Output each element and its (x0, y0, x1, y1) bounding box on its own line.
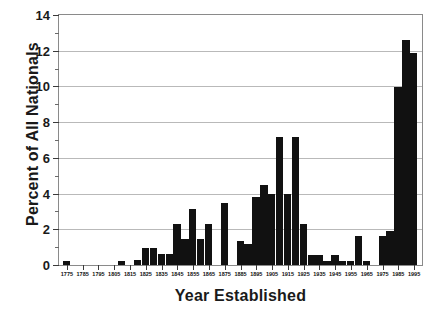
bar (158, 254, 165, 265)
x-tick (241, 265, 242, 270)
x-tick-label: 1935 (313, 271, 325, 277)
x-tick (383, 265, 384, 270)
bar (276, 137, 283, 265)
x-tick (288, 265, 289, 270)
x-tick (114, 265, 115, 270)
bar (150, 248, 157, 265)
x-tick-label: 1975 (376, 271, 388, 277)
x-tick (83, 265, 84, 270)
y-tick-minor (55, 176, 59, 177)
bar (402, 40, 409, 265)
x-tick (98, 265, 99, 270)
y-tick (53, 86, 59, 87)
bar (237, 241, 244, 265)
y-tick-label: 6 (43, 150, 50, 165)
bar-chart: Percent of All Nationals 02468101214 177… (0, 0, 430, 310)
bar (308, 255, 315, 265)
x-tick-label: 1985 (392, 271, 404, 277)
y-tick (53, 158, 59, 159)
bar (363, 261, 370, 265)
bar (300, 224, 307, 265)
x-tick-label: 1805 (108, 271, 120, 277)
bar (221, 203, 228, 265)
x-tick-label: 1925 (298, 271, 310, 277)
x-tick-label: 1785 (77, 271, 89, 277)
x-tick-label: 1955 (345, 271, 357, 277)
bar (379, 236, 386, 265)
y-tick-minor (55, 33, 59, 34)
bar (386, 231, 393, 265)
gridline (59, 158, 422, 159)
x-tick (67, 265, 68, 270)
plot-area: 02468101214 1775178517951805181518251835… (58, 14, 423, 266)
x-tick (367, 265, 368, 270)
y-tick (53, 265, 59, 266)
bar (323, 261, 330, 265)
y-tick-minor (55, 211, 59, 212)
y-tick-label: 2 (43, 222, 50, 237)
x-tick (414, 265, 415, 270)
x-tick (304, 265, 305, 270)
bar (134, 260, 141, 265)
y-tick (53, 229, 59, 230)
gridline (59, 194, 422, 195)
x-tick-label: 1905 (266, 271, 278, 277)
x-tick-label: 1945 (329, 271, 341, 277)
x-tick-label: 1965 (361, 271, 373, 277)
x-tick (225, 265, 226, 270)
x-tick-label: 1845 (171, 271, 183, 277)
x-tick-label: 1885 (234, 271, 246, 277)
bar (142, 248, 149, 265)
bar (394, 87, 401, 265)
gridline (59, 51, 422, 52)
x-tick-label: 1835 (155, 271, 167, 277)
bar (63, 261, 70, 265)
x-tick (272, 265, 273, 270)
x-tick-label: 1775 (61, 271, 73, 277)
x-tick (398, 265, 399, 270)
y-tick-label: 8 (43, 115, 50, 130)
bar (118, 261, 125, 265)
bar (339, 261, 346, 265)
x-axis-title: Year Established (58, 287, 423, 305)
bar (252, 197, 259, 265)
y-tick-minor (55, 69, 59, 70)
bar (181, 239, 188, 265)
y-tick-minor (55, 104, 59, 105)
bar (189, 209, 196, 265)
bar (284, 194, 291, 265)
x-tick (319, 265, 320, 270)
bar (166, 254, 173, 265)
bar (355, 236, 362, 265)
bar (244, 244, 251, 265)
x-tick (146, 265, 147, 270)
x-tick-label: 1815 (124, 271, 136, 277)
bar (347, 261, 354, 265)
y-tick-label: 14 (36, 8, 50, 23)
bar (315, 255, 322, 265)
x-tick (177, 265, 178, 270)
x-tick-label: 1865 (203, 271, 215, 277)
x-tick (256, 265, 257, 270)
x-tick (351, 265, 352, 270)
bar (173, 224, 180, 265)
y-tick-minor (55, 247, 59, 248)
y-tick (53, 15, 59, 16)
x-tick-label: 1915 (282, 271, 294, 277)
y-tick-label: 4 (43, 186, 50, 201)
x-tick (193, 265, 194, 270)
x-tick-label: 1825 (140, 271, 152, 277)
x-tick-label: 1995 (408, 271, 420, 277)
y-tick (53, 51, 59, 52)
bar (410, 53, 417, 265)
bar (197, 239, 204, 265)
x-tick (209, 265, 210, 270)
gridline (59, 229, 422, 230)
x-tick-label: 1795 (92, 271, 104, 277)
x-tick-label: 1895 (250, 271, 262, 277)
y-tick-label: 10 (36, 79, 50, 94)
bar (331, 255, 338, 265)
x-tick-label: 1855 (187, 271, 199, 277)
bar (292, 137, 299, 265)
y-tick (53, 194, 59, 195)
